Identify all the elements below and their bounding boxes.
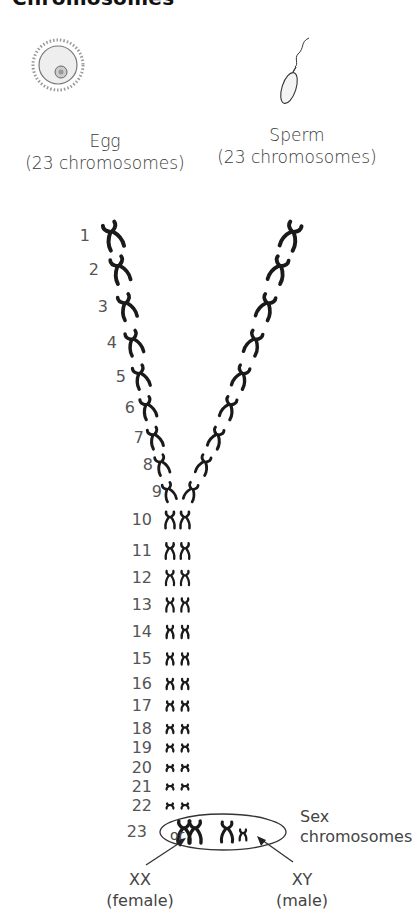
chromosome-sperm-6 [219,396,238,420]
xx-label: XX [95,869,185,890]
chromosome-sperm-18 [182,725,189,733]
chromosome-egg-2 [109,256,131,284]
sex-label-line2: chromosomes [300,827,412,847]
chromosome-sperm-1 [279,221,302,251]
female-sublabel: (female) [95,890,185,911]
chromosome-egg-3 [117,293,138,320]
female-label: XX (female) [95,869,185,911]
chromosome-egg-8 [154,454,170,475]
pair-number-19: 19 [122,740,152,756]
pair-number-7: 7 [114,430,144,446]
male-label: XY (male) [262,869,342,911]
pair-number-23: 23 [117,824,147,840]
chromosome-egg-6 [139,396,157,419]
chromosome-sperm-2 [267,256,289,284]
chromosome-egg-20 [167,765,174,771]
chromosome-sperm-16 [182,679,189,689]
chromosome-sperm-14 [182,626,189,638]
chromosome-sperm-4 [243,330,263,356]
chromosome-sperm-10 [180,512,189,529]
pair-number-10: 10 [122,512,152,528]
sperm-caption: Sperm (23 chromosomes) [212,124,382,168]
chromosome-sperm-9 [183,482,199,502]
sex-chromosome-y [240,830,247,841]
chromosome-egg-9 [161,482,176,502]
chromosome-sperm-8 [195,454,212,475]
pair-number-9: 9 [132,484,162,500]
sex-chromosomes-label: Sex chromosomes [300,807,412,847]
sex-chromosome-x-3 [221,822,232,842]
pair-number-20: 20 [122,760,152,776]
chromosome-egg-4 [124,330,144,356]
xy-label: XY [262,869,342,890]
chromosome-egg-21 [167,785,174,790]
pair-number-22: 22 [122,798,152,814]
pair-number-12: 12 [122,570,152,586]
chromosome-egg-12 [166,571,174,585]
chromosome-egg-17 [167,701,174,710]
chromosome-sperm-22 [182,804,189,809]
chromosome-egg-11 [166,543,175,559]
xy-arrow-icon [257,836,293,862]
pair-number-3: 3 [78,299,108,315]
chromosome-egg-19 [167,744,174,751]
pair-number-21: 21 [122,779,152,795]
pair-number-6: 6 [105,400,135,416]
chromosome-egg-18 [167,725,174,733]
egg-sublabel: (23 chromosomes) [20,152,190,174]
sperm-cell-icon [277,38,309,105]
pair-number-11: 11 [122,543,152,559]
chromosome-sperm-13 [181,598,188,611]
chromosome-sperm-12 [181,571,189,585]
chromosome-egg-13 [166,598,173,611]
chromosome-egg-7 [146,427,163,449]
sperm-label: Sperm [212,124,382,146]
chromosome-egg-16 [167,679,174,689]
pair-number-15: 15 [122,651,152,667]
pair-number-1: 1 [60,228,90,244]
chromosome-sperm-3 [255,293,276,320]
chromosome-sperm-21 [182,785,189,790]
chromosome-egg-10 [165,512,174,529]
pair-number-13: 13 [122,597,152,613]
pair-number-8: 8 [123,457,153,473]
sperm-sublabel: (23 chromosomes) [212,146,382,168]
chromosome-egg-14 [167,626,174,638]
pair-number-4: 4 [87,335,117,351]
chromosome-sperm-17 [182,701,189,710]
pair-number-14: 14 [122,624,152,640]
sex-label-line1: Sex [300,807,412,827]
chromosome-sperm-19 [182,744,189,751]
chromosome-sperm-7 [207,427,225,449]
chromosome-egg-15 [167,653,174,664]
chromosome-sperm-11 [181,543,190,559]
egg-label: Egg [20,130,190,152]
chromosome-sperm-20 [182,765,189,771]
egg-cell-icon [33,40,83,90]
pair-number-5: 5 [96,369,126,385]
egg-caption: Egg (23 chromosomes) [20,130,190,174]
chromosome-egg-22 [167,804,174,809]
or-label: or [170,825,184,845]
male-sublabel: (male) [262,890,342,911]
chromosome-egg-1 [102,221,125,250]
pair-number-2: 2 [69,262,99,278]
pair-number-16: 16 [122,676,152,692]
pair-number-18: 18 [122,721,152,737]
chromosome-egg-5 [132,365,151,390]
chromosome-sperm-5 [231,365,250,390]
chromosome-sperm-15 [182,653,189,664]
pair-number-17: 17 [122,698,152,714]
